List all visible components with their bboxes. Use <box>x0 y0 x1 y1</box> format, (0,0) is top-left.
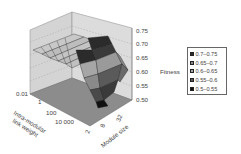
z-tick: 0.70 <box>136 40 149 47</box>
y-tick: 8 <box>98 122 106 128</box>
legend-item: 0.7–0.75 <box>190 50 224 59</box>
x-tick: 1 <box>38 98 42 105</box>
legend-swatch <box>190 52 194 56</box>
legend-label: 0.6–0.65 <box>196 68 218 74</box>
y-tick: 32 <box>114 113 123 122</box>
x-tick: 100 <box>46 109 57 116</box>
legend-label: 0.5–0.55 <box>196 86 218 92</box>
legend-label: 0.55–0.6 <box>196 77 218 83</box>
z-tick: 0.50 <box>136 96 149 103</box>
legend-swatch <box>190 69 194 73</box>
legend-item: 0.6–0.65 <box>190 67 224 76</box>
z-tick: 0.55 <box>136 82 149 89</box>
legend-item: 0.5–0.55 <box>190 84 224 93</box>
legend-label: 0.7–0.75 <box>196 51 218 57</box>
z-axis: 0.50 0.55 0.60 0.65 0.70 0.75 <box>132 27 149 103</box>
legend: 0.7–0.75 0.65–0.7 0.6–0.65 0.55–0.6 0.5–… <box>187 47 227 95</box>
legend-swatch <box>190 87 194 91</box>
x-tick: 10 000 <box>55 118 74 125</box>
legend-swatch <box>190 78 194 82</box>
z-tick: 0.75 <box>136 27 149 34</box>
z-tick: 0.60 <box>136 68 149 75</box>
x-tick: 0.01 <box>16 90 29 97</box>
legend-label: 0.65–0.7 <box>196 60 218 66</box>
z-tick: 0.65 <box>136 54 149 61</box>
legend-swatch <box>190 61 194 65</box>
legend-item: 0.55–0.6 <box>190 76 224 85</box>
legend-item: 0.65–0.7 <box>190 59 224 68</box>
z-axis-label: Fitness <box>160 68 180 75</box>
y-tick: 2 <box>83 128 91 134</box>
